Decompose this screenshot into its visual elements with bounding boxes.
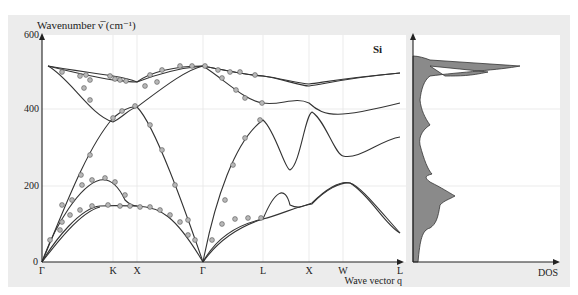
phonon-dispersion-figure: Wavenumber ν̅ (cm⁻¹) 600 400 200 0 Γ K X… [0,0,578,295]
x-axis-title: Wave vector q [345,275,403,286]
material-label: Si [373,43,382,55]
x-tick-x-2: X [305,265,313,276]
dos-axis-label: DOS [538,267,558,278]
x-tick-gamma-2: Γ [200,265,206,276]
dispersion-plot-area [42,35,406,262]
y-tick-600: 600 [24,29,39,40]
x-tick-x-1: X [133,265,141,276]
x-tick-k: K [109,265,117,276]
y-tick-400: 400 [24,103,39,114]
x-tick-l-1: L [260,265,266,276]
y-axis-title: Wavenumber ν̅ (cm⁻¹) [37,19,136,32]
y-tick-0: 0 [33,256,38,267]
x-tick-gamma-1: Γ [39,265,45,276]
y-tick-200: 200 [24,180,39,191]
